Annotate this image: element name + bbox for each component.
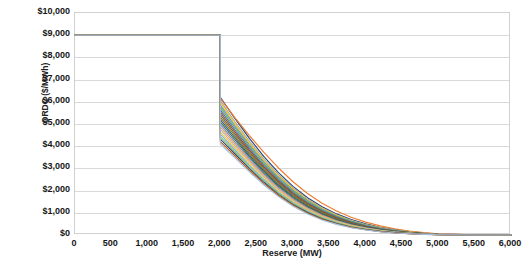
x-tick-label: 4,500	[390, 238, 413, 248]
x-tick-label: 6,000	[499, 238, 522, 248]
x-tick-label: 2,500	[244, 238, 267, 248]
y-tick-label: $3,000	[4, 161, 70, 171]
y-tick-label: $9,000	[4, 28, 70, 38]
x-tick-label: 2,000	[208, 238, 231, 248]
y-tick-label: $6,000	[4, 95, 70, 105]
x-tick-label: 5,000	[426, 238, 449, 248]
y-tick-label: $5,000	[4, 117, 70, 127]
y-tick-label: $4,000	[4, 139, 70, 149]
x-tick-label: 4,000	[353, 238, 376, 248]
x-tick-label: 3,000	[281, 238, 304, 248]
y-tick-label: $0	[4, 228, 70, 238]
x-tick-label: 5,500	[462, 238, 485, 248]
chart-title	[120, 0, 400, 9]
y-tick-label: $8,000	[4, 50, 70, 60]
curve-layer	[75, 13, 511, 235]
y-tick-label: $10,000	[4, 6, 70, 16]
x-tick-label: 1,000	[135, 238, 158, 248]
x-tick-label: 1,500	[172, 238, 195, 248]
y-tick-label: $1,000	[4, 206, 70, 216]
x-axis-title: Reserve (MW)	[74, 248, 510, 258]
x-tick-label: 0	[71, 238, 76, 248]
x-tick-label: 500	[103, 238, 118, 248]
plot-area	[74, 12, 510, 234]
ordc-curve	[75, 35, 511, 235]
y-tick-label: $2,000	[4, 184, 70, 194]
y-tick-label: $7,000	[4, 73, 70, 83]
y-axis-ticks: $0$1,000$2,000$3,000$4,000$5,000$6,000$7…	[0, 0, 70, 265]
ordc-chart: ORDC ($/MWh) $0$1,000$2,000$3,000$4,000$…	[0, 0, 530, 265]
x-tick-label: 3,500	[317, 238, 340, 248]
